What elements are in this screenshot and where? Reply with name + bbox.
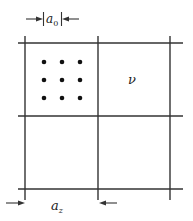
arrow-right-icon <box>36 17 43 22</box>
dot-lattice <box>42 60 83 101</box>
dot <box>42 78 47 83</box>
dot <box>78 96 83 101</box>
dot <box>60 60 65 65</box>
dot <box>42 96 47 101</box>
dot <box>78 78 83 83</box>
lattice-diagram: a0 ν az <box>0 0 193 221</box>
arrow-right-icon <box>18 201 25 206</box>
dot <box>42 60 47 65</box>
dot <box>60 78 65 83</box>
top-dimension-label: a0 <box>46 12 58 28</box>
dot <box>60 96 65 101</box>
dot <box>78 60 83 65</box>
bottom-dimension-label: az <box>51 198 64 215</box>
bottom-dimension <box>6 201 117 206</box>
cell-label: ν <box>128 72 136 87</box>
